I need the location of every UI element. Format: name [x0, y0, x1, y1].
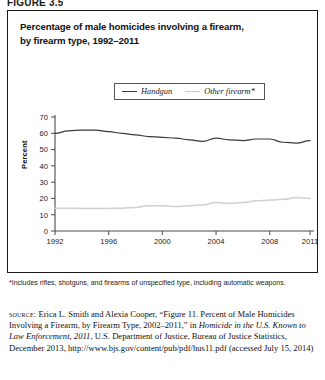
legend-label-handgun: Handgun: [141, 87, 172, 96]
chart-title-line-2: by firearm type, 1992–2011: [20, 35, 139, 46]
data-series-line: [55, 130, 310, 143]
legend-item-handgun: Handgun: [122, 87, 172, 96]
legend-item-other-firearm: Other firearm*: [185, 87, 255, 96]
y-axis-tick-label: 60: [40, 129, 48, 138]
plot-area: 010203040506070199219962000200420082011: [8, 109, 319, 269]
x-axis-tick-label: 1996: [100, 237, 117, 246]
y-axis-tick-label: 10: [40, 211, 48, 220]
chart-panel: Percentage of male homicides involving a…: [7, 10, 318, 273]
y-axis-tick-label: 70: [40, 113, 48, 122]
data-series-line: [55, 198, 310, 209]
legend-line-swatch-icon: [185, 91, 200, 92]
chart-source: source: Erica L. Smith and Alexia Cooper…: [9, 309, 315, 354]
y-axis-tick-label: 20: [40, 194, 48, 203]
x-axis-tick-label: 2000: [154, 237, 171, 246]
line-chart-svg: 010203040506070199219962000200420082011: [8, 109, 319, 269]
chart-title: Percentage of male homicides involving a…: [20, 20, 305, 47]
x-axis-tick-label: 1992: [47, 237, 64, 246]
y-axis-tick-label: 0: [44, 227, 48, 236]
x-axis-tick-label: 2004: [208, 237, 225, 246]
legend-label-other-firearm: Other firearm*: [204, 87, 255, 96]
chart-legend: Handgun Other firearm*: [114, 83, 265, 100]
y-axis-tick-label: 50: [40, 145, 48, 154]
x-axis-tick-label: 2008: [261, 237, 278, 246]
chart-footnote: *Includes rifles, shotguns, and firearms…: [9, 278, 309, 288]
x-axis-tick-label: 2011: [302, 237, 318, 246]
y-axis-tick-label: 30: [40, 178, 48, 187]
figure-number: FIGURE 3.5: [7, 0, 63, 8]
chart-title-line-1: Percentage of male homicides involving a…: [20, 21, 244, 32]
y-axis-tick-label: 40: [40, 162, 48, 171]
legend-line-swatch-icon: [122, 91, 137, 92]
source-kicker: source:: [9, 310, 36, 319]
